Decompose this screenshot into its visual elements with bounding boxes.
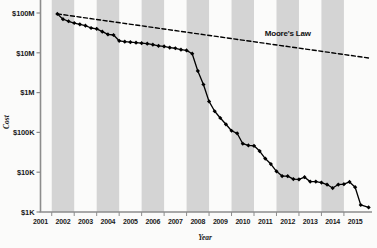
x-axis-tick-label-2002: 2002: [56, 218, 71, 225]
y-axis-tick-label-0: $100M: [12, 9, 34, 18]
year-band-2010: [232, 0, 254, 212]
y-axis-tick-label-3: $100K: [13, 128, 35, 137]
y-axis-title: Cost: [2, 114, 11, 129]
y-axis-tick-label-4: $10K: [17, 168, 35, 177]
cost-per-genome-chart: $100M$10M$1M$100K$10K$1K 200120022003200…: [0, 0, 377, 248]
x-axis-tick-label-2001: 2001: [33, 218, 48, 225]
x-axis-tick-label-2003: 2003: [78, 218, 93, 225]
x-axis-tick-label-2004: 2004: [101, 218, 116, 225]
y-axis-tick-label-2: $1M: [20, 88, 34, 97]
x-axis-tick-label-2013: 2013: [303, 218, 318, 225]
year-band-2014: [321, 0, 343, 212]
year-band-2002: [52, 0, 74, 212]
x-axis-tick-label-2015: 2015: [348, 218, 363, 225]
year-band-2004: [97, 0, 119, 212]
year-band-2006: [142, 0, 164, 212]
x-axis-tick-label-2007: 2007: [168, 218, 183, 225]
year-band-2008: [187, 0, 209, 212]
x-axis-tick-label-2006: 2006: [145, 218, 160, 225]
y-axis-tick-label-5: $1K: [21, 208, 35, 217]
x-axis-tick-label-2009: 2009: [213, 218, 228, 225]
chart-svg: $100M$10M$1M$100K$10K$1K 200120022003200…: [0, 0, 377, 248]
x-axis-tick-label-2011: 2011: [258, 218, 273, 225]
moores-law-label: Moore's Law: [265, 29, 312, 38]
x-axis-tick-label-2012: 2012: [280, 218, 295, 225]
annotation-layer: Moore's Law: [265, 29, 312, 38]
x-axis-tick-label-2010: 2010: [235, 218, 250, 225]
x-axis-tick-label-2008: 2008: [190, 218, 205, 225]
x-axis-title: Year: [198, 233, 212, 242]
y-axis-tick-label-1: $10M: [16, 49, 34, 58]
x-axis-tick-label-2014: 2014: [325, 218, 340, 225]
x-axis-tick-label-2005: 2005: [123, 218, 138, 225]
